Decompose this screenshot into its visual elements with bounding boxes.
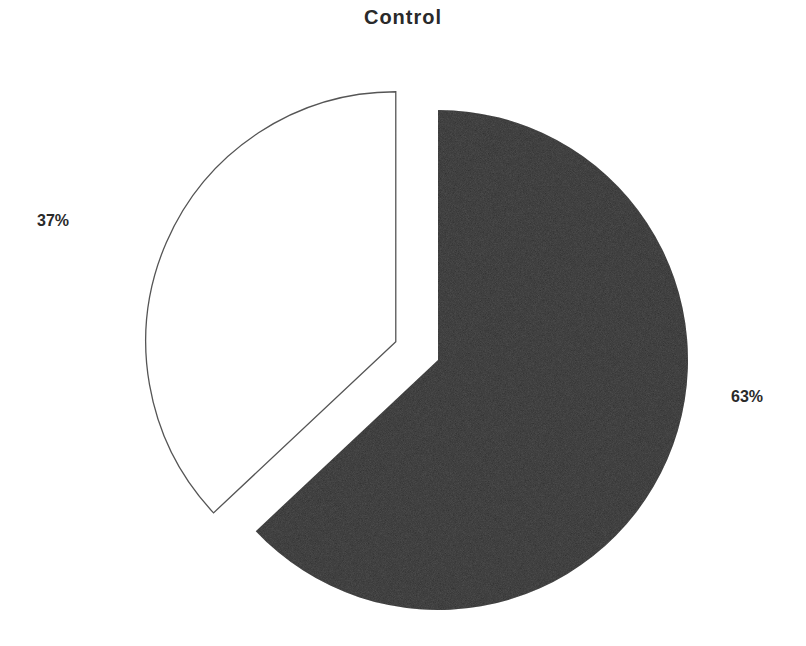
slice-label-63: 63%: [731, 388, 763, 406]
slice-label-37: 37%: [37, 212, 69, 230]
pie-chart: [0, 0, 806, 646]
